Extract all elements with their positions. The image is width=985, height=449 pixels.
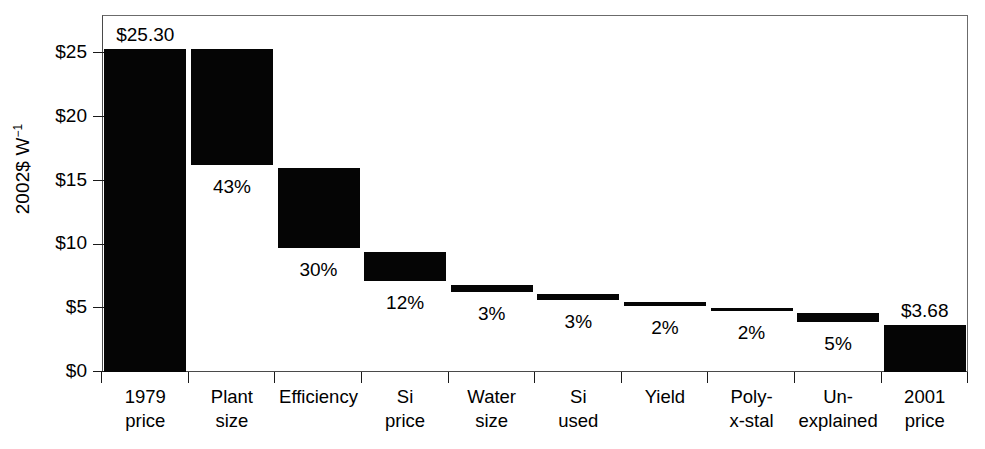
x-axis-tick: [274, 372, 275, 383]
category-label-line1: Un-: [823, 386, 853, 407]
x-axis-tick: [794, 372, 795, 383]
category-label-line2: size: [162, 409, 302, 433]
bar-percent-label: 30%: [259, 259, 379, 281]
category-label-line2: used: [508, 409, 648, 433]
waterfall-bar: [104, 49, 186, 372]
bar-value-label: $3.68: [865, 300, 985, 322]
y-axis-tick-label: $15: [31, 169, 87, 191]
y-axis-title-exponent: −1: [11, 124, 25, 138]
y-axis-tick-label: $5: [31, 296, 87, 318]
bar-value-label: $25.30: [85, 24, 205, 46]
category-label-line1: Si: [397, 386, 413, 407]
waterfall-bar: [537, 294, 619, 300]
waterfall-bar: [624, 302, 706, 305]
y-axis-title-text: 2002$ W: [12, 138, 33, 215]
x-axis-tick: [881, 372, 882, 383]
x-axis-tick: [361, 372, 362, 383]
waterfall-chart: 2002$ W−1 $0$5$10$15$20$25 $25.3043%30%1…: [0, 0, 985, 449]
x-axis-tick: [621, 372, 622, 383]
x-axis-tick: [101, 372, 102, 383]
x-axis-tick: [534, 372, 535, 383]
bar-percent-label: 5%: [778, 333, 898, 355]
waterfall-bar: [451, 285, 533, 291]
category-label-line1: Plant: [211, 386, 253, 407]
category-label-line1: Si: [570, 386, 586, 407]
bar-percent-label: 43%: [172, 176, 292, 198]
y-axis-tick-label: $25: [31, 41, 87, 63]
waterfall-bar: [191, 49, 273, 165]
category-label-line1: Poly-: [730, 386, 772, 407]
y-axis-tick-label: $0: [31, 360, 87, 382]
category-label-line2: price: [855, 409, 985, 433]
x-axis-tick: [967, 372, 968, 383]
x-axis-category-label: 2001price: [855, 385, 985, 433]
x-axis-tick: [707, 372, 708, 383]
category-label-line1: 2001: [904, 386, 945, 407]
y-axis-tick-label: $20: [31, 105, 87, 127]
waterfall-bar: [711, 308, 793, 311]
y-axis-tick-label: $10: [31, 232, 87, 254]
x-axis-tick: [448, 372, 449, 383]
x-axis-tick: [188, 372, 189, 383]
category-label-line1: 1979: [125, 386, 166, 407]
category-label-line1: Yield: [645, 386, 685, 407]
